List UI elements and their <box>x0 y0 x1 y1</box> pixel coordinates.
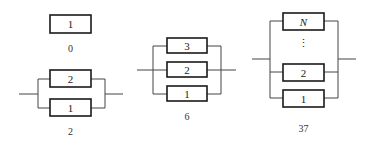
left-rail <box>19 79 50 108</box>
diagram-single: 1 0 <box>50 15 91 54</box>
diagram-parallel-3: 3 2 1 6 <box>137 38 236 122</box>
diagram-caption: 37 <box>299 123 309 134</box>
component-label: 1 <box>301 93 307 105</box>
component-label: 2 <box>301 67 307 79</box>
component-label: 3 <box>184 40 190 52</box>
component-label: N <box>299 16 308 28</box>
ellipsis-vertical: ⋮ <box>298 37 309 49</box>
component-label: 1 <box>184 88 190 100</box>
reliability-diagrams: 1 0 2 1 2 3 2 1 6 N ⋮ 2 1 37 <box>0 0 368 142</box>
component-label: 2 <box>68 73 74 85</box>
left-rail <box>252 21 283 98</box>
right-rail <box>207 46 236 94</box>
component-label: 1 <box>68 18 74 30</box>
diagram-parallel-n: N ⋮ 2 1 37 <box>252 13 356 134</box>
left-rail <box>137 46 167 94</box>
diagram-caption: 2 <box>68 126 73 137</box>
diagram-parallel-2: 2 1 2 <box>19 70 123 137</box>
component-label: 2 <box>184 64 190 76</box>
diagram-caption: 0 <box>68 43 73 54</box>
diagram-caption: 6 <box>185 111 190 122</box>
component-label: 1 <box>68 102 74 114</box>
right-rail <box>91 79 123 108</box>
right-rail <box>324 21 356 98</box>
